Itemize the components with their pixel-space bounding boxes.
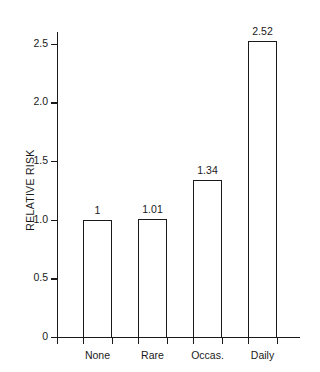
x-tick-mark (193, 337, 194, 344)
y-tick-label: 1.0 (33, 213, 48, 226)
x-category-label: Occas. (179, 348, 236, 362)
x-tick-mark (222, 337, 223, 344)
bar-value-label: 1 (69, 204, 126, 217)
x-tick-mark (277, 337, 278, 344)
x-tick-mark (167, 337, 168, 344)
bar-occas (193, 180, 222, 337)
plot-area: 00.51.01.52.02.5 11.011.342.52 NoneRareO… (57, 32, 300, 338)
bar-none (83, 220, 112, 337)
x-category-label: Rare (124, 348, 181, 362)
y-tick-mark (51, 44, 58, 45)
x-tick-mark (138, 337, 139, 344)
x-tick-mark (57, 337, 58, 344)
y-axis-title: RELATIVE RISK (22, 90, 38, 290)
bar-value-label: 1.34 (179, 164, 236, 177)
y-tick-mark (51, 220, 58, 221)
bar-value-label: 2.52 (234, 25, 291, 38)
relative-risk-bar-chart: RELATIVE RISK 00.51.01.52.02.5 11.011.34… (0, 0, 320, 372)
x-tick-mark (112, 337, 113, 344)
y-tick-mark (51, 102, 58, 103)
y-axis-line (57, 32, 58, 338)
bar-value-label: 1.01 (124, 203, 181, 216)
x-tick-mark (248, 337, 249, 344)
y-tick-label: 0.5 (33, 271, 48, 284)
x-tick-mark (83, 337, 84, 344)
y-tick-label: 1.5 (33, 154, 48, 167)
y-tick-label: 2.0 (33, 95, 48, 108)
x-axis-line (57, 337, 300, 338)
bar-rare (138, 219, 167, 337)
y-tick-mark (51, 278, 58, 279)
x-category-label: Daily (234, 348, 291, 362)
x-category-label: None (69, 348, 126, 362)
y-tick-label: 0 (42, 330, 48, 343)
y-tick-label: 2.5 (33, 37, 48, 50)
bar-daily (248, 41, 277, 337)
y-tick-mark (51, 161, 58, 162)
